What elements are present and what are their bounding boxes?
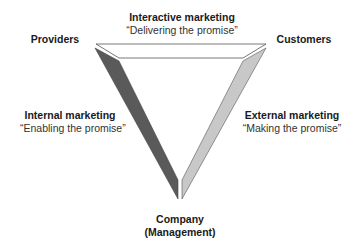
internal-marketing-title: Internal marketing <box>20 109 120 122</box>
interactive-marketing-band <box>96 44 266 58</box>
internal-marketing-quote: “Enabling the promise” <box>20 122 120 135</box>
company-node-line2: (Management) <box>140 226 220 239</box>
company-node-line1: Company <box>140 213 220 226</box>
providers-node: Providers <box>25 33 85 46</box>
interactive-marketing-title: Interactive marketing <box>127 11 237 24</box>
external-marketing-quote: “Making the promise” <box>242 122 342 135</box>
customers-node: Customers <box>269 33 339 46</box>
external-marketing-title: External marketing <box>242 109 342 122</box>
interactive-marketing-quote: “Delivering the promise” <box>122 24 242 37</box>
